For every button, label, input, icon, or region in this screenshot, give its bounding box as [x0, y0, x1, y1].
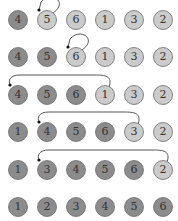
node-value: 4	[37, 122, 57, 142]
node-value: 6	[153, 197, 173, 217]
node-value: 3	[124, 122, 144, 142]
node-value: 1	[95, 10, 115, 30]
node-value: 1	[95, 47, 115, 67]
node-value: 3	[124, 85, 144, 105]
node-value: 6	[124, 160, 144, 180]
node-value: 5	[37, 10, 57, 30]
node-value: 3	[37, 160, 57, 180]
sort-step-row	[9, 0, 173, 30]
sort-step-row	[9, 198, 173, 217]
node-value: 2	[153, 122, 173, 142]
node-value: 4	[8, 47, 28, 67]
node-value: 1	[8, 197, 28, 217]
node-value: 5	[124, 197, 144, 217]
node-value: 1	[95, 85, 115, 105]
node-value: 6	[66, 85, 86, 105]
node-value: 2	[153, 10, 173, 30]
node-value: 6	[95, 122, 115, 142]
node-value: 4	[95, 197, 115, 217]
node-value: 2	[37, 197, 57, 217]
node-value: 4	[8, 85, 28, 105]
node-value: 3	[124, 47, 144, 67]
node-value: 6	[66, 47, 86, 67]
node-value: 4	[8, 10, 28, 30]
insertion-sort-diagram	[0, 0, 178, 221]
sort-step-row	[8, 75, 172, 105]
node-value: 1	[8, 122, 28, 142]
node-value: 2	[153, 85, 173, 105]
sort-step-row	[9, 150, 173, 180]
node-value: 2	[153, 160, 173, 180]
node-value: 5	[37, 85, 57, 105]
node-value: 5	[95, 160, 115, 180]
node-value: 6	[66, 10, 86, 30]
sort-step-row	[9, 34, 173, 66]
node-value: 5	[66, 122, 86, 142]
node-value: 2	[153, 47, 173, 67]
node-value: 5	[37, 47, 57, 67]
node-value: 4	[66, 160, 86, 180]
sort-step-row	[9, 112, 173, 142]
node-value: 3	[124, 10, 144, 30]
node-value: 3	[66, 197, 86, 217]
node-value: 1	[8, 160, 28, 180]
